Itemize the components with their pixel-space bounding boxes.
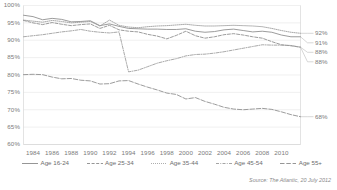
legend-label-age-25-34: Age 25-34 xyxy=(105,160,134,166)
legend-swatch-age-16-24 xyxy=(22,160,38,167)
chart-legend: Age 16-24Age 25-34Age 35-44Age 45-54Age … xyxy=(22,160,322,167)
y-tick-label: 70% xyxy=(1,107,20,113)
end-label-age-55: 68% xyxy=(315,114,327,120)
x-tick-label: 2010 xyxy=(270,150,292,156)
end-label-age-25-34: 88% xyxy=(315,49,327,55)
legend-item-age-25-34[interactable]: Age 25-34 xyxy=(87,160,134,167)
series-lines xyxy=(24,15,301,116)
legend-item-age-35-44[interactable]: Age 35-44 xyxy=(151,160,198,167)
y-tick-label: 75% xyxy=(1,89,20,95)
legend-label-age-45-54: Age 45-54 xyxy=(234,160,263,166)
legend-swatch-age-35-44 xyxy=(151,160,167,167)
y-tick-label: 80% xyxy=(1,72,20,78)
legend-item-age-55[interactable]: Age 55+ xyxy=(280,160,322,167)
legend-swatch-age-55 xyxy=(280,160,296,167)
end-label-age-16-24: 91% xyxy=(315,40,327,46)
y-tick-label: 65% xyxy=(1,124,20,130)
legend-item-age-45-54[interactable]: Age 45-54 xyxy=(216,160,263,167)
legend-label-age-16-24: Age 16-24 xyxy=(41,160,70,166)
y-tick-label: 95% xyxy=(1,20,20,26)
end-label-age-45-54: 88% xyxy=(315,59,327,65)
series-line-age-45-54 xyxy=(24,29,301,71)
y-tick-label: 85% xyxy=(1,54,20,60)
leader-line xyxy=(301,47,314,62)
y-tick-label: 100% xyxy=(1,2,20,8)
leader-line xyxy=(301,37,314,43)
employment-rate-line-chart: 100%95%90%85%80%75%70%65%60% 19841986198… xyxy=(0,0,337,190)
source-attribution: Source: The Atlantic, 20 July 2012 xyxy=(249,178,331,183)
legend-swatch-age-45-54 xyxy=(216,160,232,167)
y-tick-label: 90% xyxy=(1,37,20,43)
legend-label-age-35-44: Age 35-44 xyxy=(170,160,199,166)
end-label-age-35-44: 92% xyxy=(315,30,327,36)
legend-item-age-16-24[interactable]: Age 16-24 xyxy=(22,160,69,167)
legend-swatch-age-25-34 xyxy=(87,160,103,167)
y-tick-label: 60% xyxy=(1,141,20,147)
legend-label-age-55: Age 55+ xyxy=(299,160,322,166)
series-line-age-25-34 xyxy=(24,20,301,47)
series-line-age-55 xyxy=(24,74,301,116)
end-label-leader-lines xyxy=(301,33,314,116)
